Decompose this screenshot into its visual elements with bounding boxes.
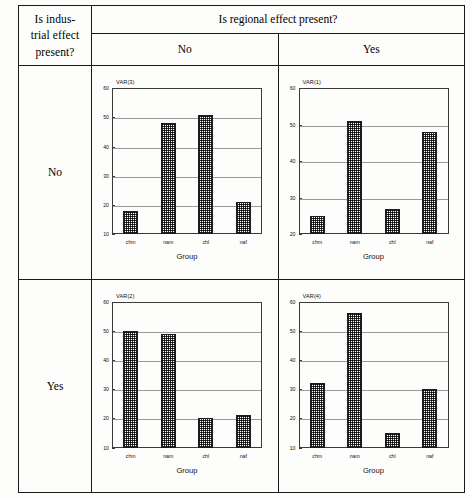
- chart-cell-var2: VAR(2)102030405060chmnamchlnafGroup: [92, 279, 279, 492]
- y-tick-label: 40: [96, 144, 109, 150]
- x-tick-label: naf: [225, 453, 263, 459]
- y-tick-mark: [112, 147, 115, 148]
- bar: [236, 202, 251, 234]
- bar: [161, 334, 176, 448]
- x-axis-title: Group: [299, 466, 449, 475]
- y-tick-mark: [112, 360, 115, 361]
- chart-title: VAR(4): [303, 293, 322, 299]
- bar: [236, 415, 251, 447]
- column-header-no: No: [92, 33, 279, 66]
- column-header-yes: Yes: [278, 33, 465, 66]
- y-tick-mark: [112, 389, 115, 390]
- chart-cell-var3: VAR(3)102030405060chmnamchlnafGroup: [92, 66, 279, 279]
- chart-cell-var4: VAR(4)102030405060chmnamchlnafGroup: [278, 279, 465, 492]
- bar: [310, 216, 325, 234]
- y-tick-mark: [112, 418, 115, 419]
- x-tick-label: naf: [411, 239, 449, 245]
- y-tick-mark: [112, 234, 115, 235]
- bar: [123, 211, 138, 234]
- y-tick-label: 50: [96, 114, 109, 120]
- bar: [385, 209, 400, 235]
- y-tick-label: 20: [283, 415, 296, 421]
- bar: [198, 115, 213, 235]
- bar: [310, 383, 325, 447]
- gridline: [113, 118, 261, 119]
- bar: [161, 123, 176, 234]
- y-tick-mark: [299, 389, 302, 390]
- x-tick-label: chl: [374, 239, 412, 245]
- y-tick-label: 30: [96, 386, 109, 392]
- y-tick-label: 30: [96, 173, 109, 179]
- x-tick-label: chm: [299, 239, 337, 245]
- figure-page: Is indus- trial effect present? Is regio…: [0, 0, 472, 499]
- y-tick-label: 20: [96, 415, 109, 421]
- corner-label-line-1: Is indus-: [22, 11, 88, 28]
- corner-label-line-3: present?: [22, 44, 88, 61]
- x-tick-label: chl: [374, 453, 412, 459]
- corner-header-cell: Is indus- trial effect present?: [19, 6, 92, 66]
- y-tick-label: 10: [283, 445, 296, 451]
- y-tick-mark: [112, 88, 115, 89]
- row-header-no: No: [19, 66, 92, 279]
- y-tick-mark: [112, 205, 115, 206]
- y-tick-label: 10: [96, 445, 109, 451]
- gridline: [300, 361, 448, 362]
- bar: [347, 121, 362, 234]
- chart-canvas: VAR(1)2030405060chmnamchlnafGroup: [279, 66, 465, 278]
- y-tick-mark: [299, 331, 302, 332]
- table-row-no: No VAR(3)102030405060chmnamchlnafGroup V…: [19, 66, 465, 279]
- chart-title: VAR(3): [116, 79, 135, 85]
- table-row-header-top: Is indus- trial effect present? Is regio…: [19, 6, 465, 34]
- y-tick-label: 60: [283, 85, 296, 91]
- gridline: [113, 177, 261, 178]
- y-tick-mark: [112, 331, 115, 332]
- x-tick-label: nam: [336, 239, 374, 245]
- y-tick-mark: [299, 234, 302, 235]
- y-tick-mark: [299, 125, 302, 126]
- x-tick-label: nam: [150, 453, 188, 459]
- y-tick-label: 50: [283, 122, 296, 128]
- x-axis-title: Group: [112, 466, 262, 475]
- y-tick-mark: [299, 418, 302, 419]
- y-tick-label: 20: [96, 202, 109, 208]
- y-tick-label: 10: [96, 231, 109, 237]
- x-tick-label: nam: [150, 239, 188, 245]
- bar: [123, 331, 138, 448]
- x-tick-label: chm: [112, 453, 150, 459]
- x-tick-label: naf: [225, 239, 263, 245]
- bar: [198, 418, 213, 447]
- x-tick-label: nam: [336, 453, 374, 459]
- x-axis-title: Group: [112, 252, 262, 261]
- chart-canvas: VAR(4)102030405060chmnamchlnafGroup: [279, 280, 465, 492]
- bar-chart-var1: VAR(1)2030405060chmnamchlnafGroup: [279, 66, 465, 278]
- y-tick-label: 40: [283, 158, 296, 164]
- x-axis-title: Group: [299, 252, 449, 261]
- y-tick-label: 30: [283, 386, 296, 392]
- y-tick-label: 30: [283, 195, 296, 201]
- factor-matrix-table: Is indus- trial effect present? Is regio…: [18, 5, 465, 493]
- y-tick-mark: [299, 88, 302, 89]
- y-tick-mark: [112, 176, 115, 177]
- chart-canvas: VAR(2)102030405060chmnamchlnafGroup: [92, 280, 278, 492]
- y-tick-mark: [299, 198, 302, 199]
- y-tick-label: 50: [283, 328, 296, 334]
- corner-label-line-2: trial effect: [22, 27, 88, 44]
- y-tick-mark: [299, 302, 302, 303]
- bar: [385, 433, 400, 448]
- chart-canvas: VAR(3)102030405060chmnamchlnafGroup: [92, 66, 278, 278]
- x-tick-label: chm: [299, 453, 337, 459]
- bar-chart-var2: VAR(2)102030405060chmnamchlnafGroup: [92, 280, 278, 492]
- chart-title: VAR(2): [116, 293, 135, 299]
- chart-cell-var1: VAR(1)2030405060chmnamchlnafGroup: [278, 66, 465, 279]
- y-tick-mark: [112, 448, 115, 449]
- x-tick-label: naf: [411, 453, 449, 459]
- table-row-yes: Yes VAR(2)102030405060chmnamchlnafGroup …: [19, 279, 465, 492]
- bar-chart-var3: VAR(3)102030405060chmnamchlnafGroup: [92, 66, 278, 278]
- gridline: [300, 126, 448, 127]
- y-tick-label: 40: [96, 357, 109, 363]
- y-tick-mark: [112, 302, 115, 303]
- x-tick-label: chl: [187, 239, 225, 245]
- bar-chart-var4: VAR(4)102030405060chmnamchlnafGroup: [279, 280, 465, 492]
- chart-title: VAR(1): [303, 79, 322, 85]
- gridline: [300, 332, 448, 333]
